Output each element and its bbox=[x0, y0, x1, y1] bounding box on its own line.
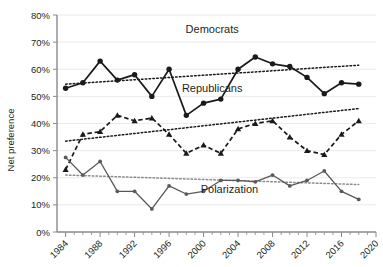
x-tick-label: 2020 bbox=[358, 238, 381, 261]
data-point bbox=[166, 67, 171, 72]
data-point bbox=[218, 96, 223, 101]
data-point bbox=[322, 169, 326, 173]
data-point bbox=[288, 184, 292, 188]
data-point bbox=[115, 77, 120, 82]
y-tick-label: 60% bbox=[31, 64, 51, 75]
data-point bbox=[287, 134, 293, 140]
x-tick-label: 2016 bbox=[323, 238, 346, 261]
data-point bbox=[200, 142, 206, 148]
x-tick-label: 2000 bbox=[185, 238, 208, 261]
trendline bbox=[66, 109, 359, 142]
net-preference-line-chart: 0%10%20%30%40%50%60%70%80% 1984198819921… bbox=[0, 0, 383, 267]
data-point bbox=[235, 67, 240, 72]
data-point bbox=[150, 207, 154, 211]
data-point bbox=[63, 167, 69, 173]
data-point bbox=[133, 189, 137, 193]
y-tick-label: 10% bbox=[31, 199, 51, 210]
y-tick-label: 50% bbox=[31, 91, 51, 102]
x-tick-label: 2004 bbox=[220, 238, 243, 261]
data-point bbox=[253, 54, 258, 59]
series-annotation-label: Democrats bbox=[186, 23, 240, 35]
data-point bbox=[149, 94, 154, 99]
x-tick-label: 2008 bbox=[254, 238, 277, 261]
data-point bbox=[340, 189, 344, 193]
data-point bbox=[167, 184, 171, 188]
data-point bbox=[287, 64, 292, 69]
x-tick-label: 1996 bbox=[151, 238, 174, 261]
data-point bbox=[132, 72, 137, 77]
data-point bbox=[80, 80, 85, 85]
data-point bbox=[357, 198, 361, 202]
x-tick-label: 1984 bbox=[47, 238, 70, 261]
data-point bbox=[97, 58, 102, 63]
series-annotation-label: Republicans bbox=[182, 82, 243, 94]
y-tick-label: 30% bbox=[31, 145, 51, 156]
data-point bbox=[339, 80, 344, 85]
y-axis-title: Net preference bbox=[5, 109, 16, 172]
data-point bbox=[356, 118, 362, 124]
y-tick-label: 80% bbox=[31, 10, 51, 21]
y-tick-label: 70% bbox=[31, 37, 51, 48]
data-point bbox=[271, 173, 275, 177]
data-point bbox=[304, 75, 309, 80]
x-tick-label: 2012 bbox=[289, 238, 312, 261]
x-tick-label: 1988 bbox=[82, 238, 105, 261]
data-point bbox=[166, 131, 172, 137]
data-point bbox=[98, 160, 102, 164]
data-point bbox=[115, 189, 119, 193]
data-point bbox=[201, 100, 206, 105]
data-point bbox=[114, 112, 120, 118]
series-annotations-group: DemocratsRepublicansPolarization bbox=[182, 23, 258, 195]
chart-container: 0%10%20%30%40%50%60%70%80% 1984198819921… bbox=[0, 0, 383, 267]
data-point bbox=[81, 173, 85, 177]
y-tick-label: 40% bbox=[31, 118, 51, 129]
data-point bbox=[184, 192, 188, 196]
y-tick-label: 0% bbox=[36, 227, 50, 238]
data-point bbox=[305, 179, 309, 183]
x-tick-label: 1992 bbox=[116, 238, 139, 261]
y-axis-title-group: Net preference bbox=[5, 109, 16, 172]
x-axis: 1984198819921996200020042008201220162020 bbox=[47, 232, 380, 260]
data-point bbox=[80, 131, 86, 137]
data-point bbox=[270, 61, 275, 66]
data-point bbox=[356, 81, 361, 86]
data-point bbox=[184, 113, 189, 118]
y-tick-label: 20% bbox=[31, 172, 51, 183]
series-annotation-label: Polarization bbox=[201, 183, 258, 195]
data-point bbox=[63, 86, 68, 91]
y-axis: 0%10%20%30%40%50%60%70%80% bbox=[31, 10, 57, 238]
data-point bbox=[64, 156, 68, 160]
data-point bbox=[322, 91, 327, 96]
